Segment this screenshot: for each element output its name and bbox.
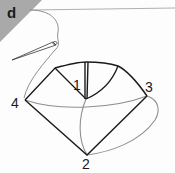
thread-cross xyxy=(25,96,147,107)
thread-top xyxy=(30,8,175,10)
vertex-label-3: 3 xyxy=(145,80,153,94)
thread-right xyxy=(87,96,158,155)
diagram-panel-d: d 1 2 3 4 xyxy=(0,0,175,173)
vertex-label-1: 1 xyxy=(73,78,81,92)
panel-label: d xyxy=(7,4,16,21)
center-fold xyxy=(85,62,88,99)
outline-top xyxy=(25,62,147,100)
vertex-label-4: 4 xyxy=(11,96,19,110)
vertex-label-2: 2 xyxy=(82,157,90,171)
